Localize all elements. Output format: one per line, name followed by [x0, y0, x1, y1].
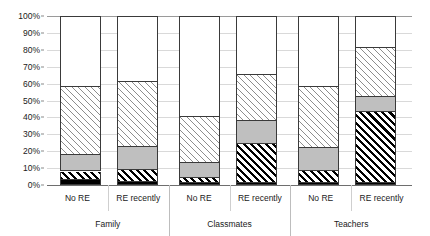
- x-axis-category-3: No RE: [169, 185, 230, 211]
- bar-1-divider-4: [60, 86, 101, 87]
- x-axis-group-1: Family: [47, 211, 169, 236]
- bar-5-divider-1: [298, 182, 339, 183]
- bar-2: [117, 16, 158, 185]
- bar-5: [298, 16, 339, 185]
- bar-3-divider-1: [179, 182, 220, 183]
- y-tick-label-40: 40%: [23, 113, 40, 122]
- x-axis-separator-4: [290, 185, 291, 211]
- y-tick-mark-30: [41, 134, 44, 135]
- bar-4-segment-2: [236, 144, 277, 183]
- bar-3: [179, 16, 220, 185]
- bar-5-divider-2: [298, 170, 339, 171]
- x-axis-category-2: RE recently: [108, 185, 169, 211]
- bar-6-segment-2: [355, 112, 396, 183]
- bar-6: [355, 16, 396, 185]
- bar-2-divider-2: [117, 169, 158, 170]
- y-tick-label-20: 20%: [23, 147, 40, 156]
- bar-1-segment-3: [60, 155, 101, 172]
- bar-2-divider-1: [117, 181, 158, 182]
- bar-2-divider-4: [117, 81, 158, 82]
- bar-4: [236, 16, 277, 185]
- x-axis-group-2: Classmates: [169, 211, 291, 236]
- x-axis-group-3: Teachers: [290, 211, 412, 236]
- y-tick-mark-50: [41, 100, 44, 101]
- x-axis-category-1: No RE: [47, 185, 108, 211]
- y-tick-mark-0: [41, 185, 44, 186]
- bar-6-divider-4: [355, 47, 396, 48]
- bar-6-segment-3: [355, 97, 396, 112]
- y-tick-mark-80: [41, 49, 44, 50]
- bar-1-divider-3: [60, 154, 101, 155]
- y-tick-mark-40: [41, 117, 44, 118]
- y-tick-mark-20: [41, 151, 44, 152]
- x-axis-category-6: RE recently: [351, 185, 412, 211]
- bar-4-divider-3: [236, 120, 277, 121]
- x-axis-separator-2: [169, 185, 170, 211]
- bar-4-divider-1: [236, 182, 277, 183]
- bar-2-segment-4: [117, 82, 158, 147]
- bar-6-divider-1: [355, 182, 396, 183]
- bar-1-divider-2: [60, 170, 101, 171]
- y-tick-mark-90: [41, 32, 44, 33]
- bar-4-segment-3: [236, 121, 277, 145]
- bar-5-segment-4: [298, 87, 339, 148]
- x-axis-categories: No RERE recentlyNo RERE recentlyNo RERE …: [47, 185, 412, 211]
- bar-1-divider-1: [60, 179, 101, 180]
- bar-5-segment-3: [298, 148, 339, 172]
- x-axis-groups: FamilyClassmatesTeachers: [47, 211, 412, 236]
- bars-layer: [47, 16, 412, 185]
- bar-6-divider-2: [355, 111, 396, 112]
- x-axis-group-separator-2: [290, 211, 291, 236]
- x-axis-separator-3: [230, 185, 231, 211]
- stacked-bar-chart: 0%10%20%30%40%50%60%70%80%90%100% No RER…: [0, 0, 430, 236]
- y-tick-label-50: 50%: [23, 96, 40, 105]
- bar-2-divider-3: [117, 146, 158, 147]
- bar-4-divider-4: [236, 74, 277, 75]
- bar-6-divider-3: [355, 96, 396, 97]
- bar-3-segment-4: [179, 117, 220, 163]
- bar-3-segment-5: [179, 16, 220, 117]
- y-tick-label-0: 0%: [28, 181, 40, 190]
- x-axis-separator-1: [108, 185, 109, 211]
- bar-2-segment-3: [117, 147, 158, 170]
- x-axis-group-separator-1: [169, 211, 170, 236]
- bar-5-divider-4: [298, 86, 339, 87]
- bar-6-segment-4: [355, 48, 396, 97]
- bar-4-segment-5: [236, 16, 277, 75]
- x-axis: No RERE recentlyNo RERE recentlyNo RERE …: [47, 185, 412, 236]
- x-axis-category-4: RE recently: [230, 185, 291, 211]
- bar-3-segment-3: [179, 163, 220, 178]
- bar-3-divider-3: [179, 162, 220, 163]
- y-tick-label-100: 100%: [18, 12, 40, 21]
- bar-3-divider-2: [179, 177, 220, 178]
- bar-6-segment-5: [355, 16, 396, 48]
- bar-2-segment-5: [117, 16, 158, 82]
- plot-area: [47, 16, 412, 185]
- y-tick-label-30: 30%: [23, 130, 40, 139]
- y-tick-mark-60: [41, 83, 44, 84]
- y-tick-label-80: 80%: [23, 46, 40, 55]
- bar-5-divider-3: [298, 147, 339, 148]
- y-tick-mark-70: [41, 66, 44, 67]
- x-axis-separator-5: [351, 185, 352, 211]
- y-tick-label-10: 10%: [23, 164, 40, 173]
- x-axis-category-5: No RE: [290, 185, 351, 211]
- y-axis: 0%10%20%30%40%50%60%70%80%90%100%: [0, 0, 45, 236]
- bar-5-segment-5: [298, 16, 339, 87]
- bar-1-segment-4: [60, 87, 101, 155]
- bar-3-divider-4: [179, 116, 220, 117]
- bar-1: [60, 16, 101, 185]
- bar-4-segment-4: [236, 75, 277, 121]
- y-tick-label-90: 90%: [23, 29, 40, 38]
- y-tick-mark-100: [41, 16, 44, 17]
- bar-4-divider-2: [236, 143, 277, 144]
- y-tick-label-60: 60%: [23, 79, 40, 88]
- y-tick-mark-10: [41, 168, 44, 169]
- y-tick-label-70: 70%: [23, 62, 40, 71]
- bar-1-segment-5: [60, 16, 101, 87]
